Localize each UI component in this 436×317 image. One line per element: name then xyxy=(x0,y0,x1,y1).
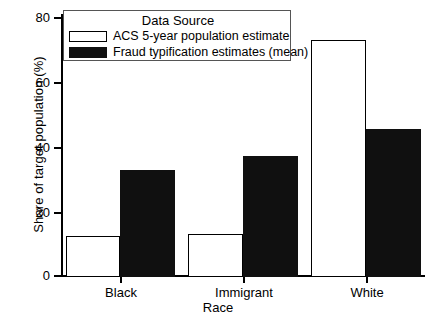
bar-chart: Share of target population (%) 80 60 40 … xyxy=(0,0,436,317)
legend-swatch-open-icon xyxy=(69,31,107,42)
y-tick-mark xyxy=(54,82,61,84)
x-axis-label: Race xyxy=(0,300,436,315)
y-tick-label-80: 80 xyxy=(20,11,50,24)
bar-black-fraud xyxy=(120,170,175,277)
y-tick-label-40: 40 xyxy=(20,141,50,154)
y-tick-mark xyxy=(54,17,61,19)
y-tick-label-60: 60 xyxy=(20,76,50,89)
legend-title: Data Source xyxy=(64,13,292,28)
bar-black-acs xyxy=(66,236,120,277)
x-tick-label-black: Black xyxy=(61,285,181,300)
x-tick-label-white: White xyxy=(307,285,427,300)
y-tick-mark xyxy=(54,147,61,149)
x-tick-mark xyxy=(366,277,368,283)
legend: Data Source ACS 5-year population estima… xyxy=(63,10,291,61)
legend-label-acs: ACS 5-year population estimate xyxy=(113,29,289,44)
x-tick-label-immigrant: Immigrant xyxy=(184,285,304,300)
x-tick-mark xyxy=(120,277,122,283)
y-tick-label-0: 0 xyxy=(20,269,50,282)
bar-white-fraud xyxy=(366,129,421,277)
y-tick-mark xyxy=(54,212,61,214)
bar-white-acs xyxy=(311,40,366,277)
bar-immigrant-fraud xyxy=(243,156,298,277)
bar-immigrant-acs xyxy=(188,234,243,277)
legend-label-fraud: Fraud typification estimates (mean) xyxy=(113,45,308,60)
x-tick-mark xyxy=(243,277,245,283)
y-tick-mark xyxy=(54,275,61,277)
legend-swatch-filled-icon xyxy=(69,47,107,58)
y-tick-label-20: 20 xyxy=(20,206,50,219)
